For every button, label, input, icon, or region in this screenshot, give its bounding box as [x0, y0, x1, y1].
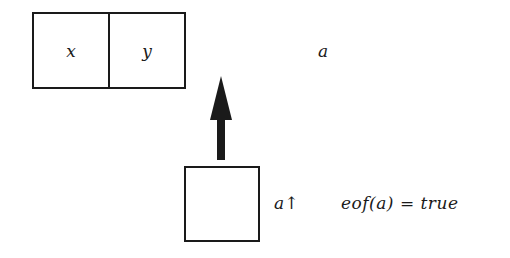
cell-y-label: y	[142, 41, 152, 61]
up-arrow-icon	[207, 74, 237, 160]
file-label: a	[318, 43, 328, 60]
buffer-label: a↑	[274, 195, 298, 212]
buffer-variable-box	[184, 166, 260, 242]
cell-x: x	[34, 14, 108, 87]
file-cells: x y	[32, 12, 186, 89]
eof-condition: eof(a) = true	[341, 195, 459, 212]
cell-x-label: x	[66, 41, 76, 61]
diagram-canvas: x y a a↑ eof(a) = true	[0, 0, 510, 258]
cell-y: y	[108, 14, 184, 87]
